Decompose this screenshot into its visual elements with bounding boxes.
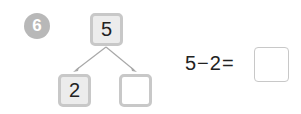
bond-whole-box: 5 [90, 13, 123, 46]
bond-part-right-input[interactable] [119, 74, 152, 107]
bond-part-left-box: 2 [58, 74, 91, 107]
equation-text: 5−2= [185, 52, 235, 75]
answer-input-box[interactable] [254, 47, 289, 82]
